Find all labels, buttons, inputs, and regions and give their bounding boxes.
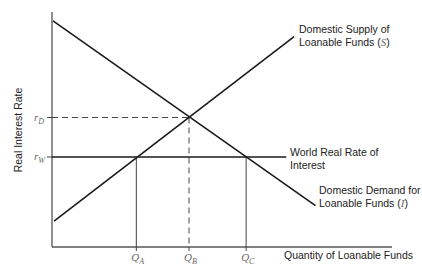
x-tick-label-qb: QB [184,251,197,266]
supply-curve-paren: ) [386,36,390,48]
x-tick-label-qa: QA [131,251,144,266]
supply-curve [54,37,294,221]
world-rate-line-label-line: World Real Rate of [290,146,379,158]
demand-curve [53,21,315,206]
world-rate-line-label-line: Interest [290,159,325,171]
demand-curve-label-line: Domestic Demand for [319,184,421,196]
demand-curve-label-line: Loanable Funds (I) [319,197,408,209]
supply-curve-label-line: Loanable Funds (S) [299,36,390,48]
x-axis-label: Quantity of Loanable Funds [284,249,413,261]
supply-curve-label-line: Domestic Supply of [299,23,390,35]
loanable-funds-diagram: Domestic Supply ofLoanable Funds (S)Dome… [0,0,422,277]
y-tick-label-rd: rD [34,111,44,126]
demand-curve-paren: ) [404,197,408,209]
y-tick-label-rw: rW [34,150,46,165]
y-axis-label: Real Interest Rate [12,88,24,173]
x-tick-label-qc: QC [241,251,255,266]
